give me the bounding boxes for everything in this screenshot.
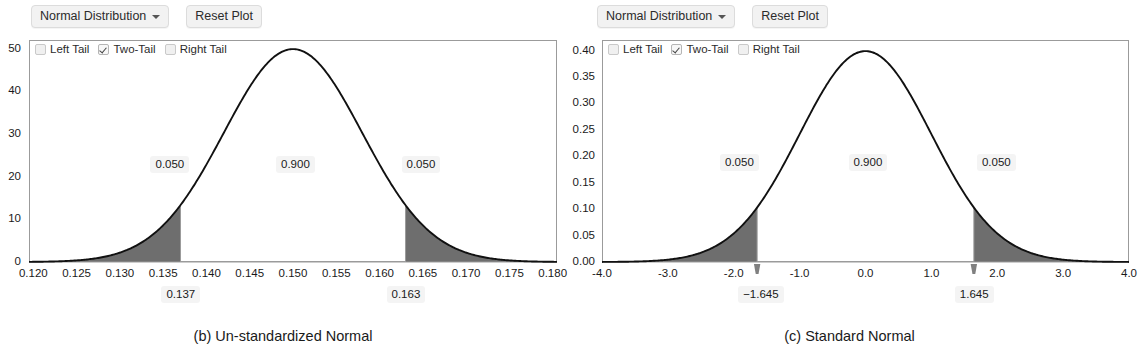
cut-value-chip[interactable]: 0.163	[387, 286, 426, 303]
area-probability-chip: 0.050	[402, 156, 441, 173]
tail-legend: Left TailTwo-TailRight Tail	[35, 43, 227, 55]
checkbox-unchecked-icon[interactable]	[165, 44, 176, 55]
checkbox-checked-icon[interactable]	[671, 44, 682, 55]
x-axis-tick-label: 0.0	[836, 267, 896, 279]
x-axis-tick-label: 2.0	[967, 267, 1027, 279]
y-axis-tick-label: 20	[8, 170, 21, 182]
cut-value-chip[interactable]: 0.137	[161, 286, 200, 303]
distribution-dropdown-label: Normal Distribution	[606, 9, 712, 23]
plot-frame	[602, 40, 1129, 262]
x-axis-tick-label: -1.0	[770, 267, 830, 279]
distribution-dropdown[interactable]: Normal Distribution	[31, 5, 169, 28]
x-axis-tick-label: 1.0	[901, 267, 961, 279]
y-axis-tick-label: 0.40	[573, 44, 595, 56]
y-axis-tick-label: 0.35	[573, 70, 595, 82]
y-axis-tick-label: 10	[8, 212, 21, 224]
panel-caption: (c) Standard Normal	[566, 328, 1133, 344]
y-axis-tick-label: 0.05	[573, 229, 595, 241]
legend-item-right-tail[interactable]: Right Tail	[165, 43, 227, 55]
y-axis-tick-label: 0.25	[573, 123, 595, 135]
legend-label: Left Tail	[623, 43, 662, 55]
chevron-down-icon	[718, 15, 726, 19]
plot-frame	[29, 40, 557, 262]
legend-item-left-tail[interactable]: Left Tail	[35, 43, 89, 55]
cut-value-chip[interactable]: 1.645	[955, 286, 994, 303]
y-axis-tick-label: 0.10	[573, 202, 595, 214]
y-axis-tick-label: 40	[8, 84, 21, 96]
legend-label: Left Tail	[50, 43, 89, 55]
chevron-down-icon	[152, 15, 160, 19]
reset-plot-button[interactable]: Reset Plot	[752, 5, 828, 28]
legend-label: Two-Tail	[686, 43, 728, 55]
x-axis-tick-label: -2.0	[704, 267, 764, 279]
checkbox-unchecked-icon[interactable]	[35, 44, 46, 55]
area-probability-chip: 0.900	[849, 154, 888, 171]
checkbox-unchecked-icon[interactable]	[608, 44, 619, 55]
panel-caption: (b) Un-standardized Normal	[0, 328, 566, 344]
x-axis-tick-label: 3.0	[1033, 267, 1093, 279]
legend-item-left-tail[interactable]: Left Tail	[608, 43, 662, 55]
y-axis-tick-label: 0.20	[573, 149, 595, 161]
checkbox-unchecked-icon[interactable]	[738, 44, 749, 55]
checkbox-checked-icon[interactable]	[98, 44, 109, 55]
x-axis-tick-label: 4.0	[1099, 267, 1142, 279]
legend-item-right-tail[interactable]: Right Tail	[738, 43, 800, 55]
y-axis-tick-label: 30	[8, 127, 21, 139]
area-probability-chip: 0.050	[150, 156, 189, 173]
distribution-dropdown[interactable]: Normal Distribution	[597, 5, 735, 28]
y-axis-tick-label: 0.30	[573, 96, 595, 108]
area-probability-chip: 0.900	[276, 156, 315, 173]
panel-standard: Normal Distribution Reset Plot Left Tail…	[566, 0, 1133, 350]
legend-label: Right Tail	[180, 43, 227, 55]
reset-plot-button[interactable]: Reset Plot	[186, 5, 262, 28]
legend-label: Right Tail	[753, 43, 800, 55]
legend-label: Two-Tail	[113, 43, 155, 55]
distribution-dropdown-label: Normal Distribution	[40, 9, 146, 23]
toolbar: Normal Distribution Reset Plot	[31, 5, 262, 28]
tail-legend: Left TailTwo-TailRight Tail	[608, 43, 800, 55]
area-probability-chip: 0.050	[977, 154, 1016, 171]
x-axis-tick-label: -4.0	[572, 267, 632, 279]
toolbar: Normal Distribution Reset Plot	[597, 5, 828, 28]
y-axis-tick-label: 50	[8, 42, 21, 54]
y-axis-tick-label: 0.00	[573, 255, 595, 267]
reset-plot-label: Reset Plot	[761, 9, 819, 23]
panel-unstandardized: Normal Distribution Reset Plot Left Tail…	[0, 0, 566, 350]
reset-plot-label: Reset Plot	[195, 9, 253, 23]
y-axis-tick-label: 0	[15, 255, 21, 267]
cut-value-chip[interactable]: −1.645	[738, 286, 784, 303]
area-probability-chip: 0.050	[720, 154, 759, 171]
legend-item-two-tail[interactable]: Two-Tail	[671, 43, 728, 55]
y-axis-tick-label: 0.15	[573, 176, 595, 188]
legend-item-two-tail[interactable]: Two-Tail	[98, 43, 155, 55]
x-axis-tick-label: -3.0	[638, 267, 698, 279]
